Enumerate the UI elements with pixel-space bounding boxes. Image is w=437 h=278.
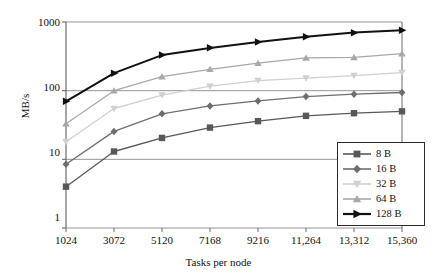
xtick-label-15360: 15,360 <box>378 234 426 246</box>
legend-marker-triangle-right-icon <box>342 207 372 221</box>
xtick-label-5120: 5120 <box>138 234 186 246</box>
legend-label-16b: 16 B <box>376 163 396 174</box>
legend-item-32b: 32 B <box>342 176 420 191</box>
xtick-label-9216: 9216 <box>234 234 282 246</box>
legend-label-128b: 128 B <box>376 208 401 219</box>
x-axis-label: Tasks per node <box>0 256 437 268</box>
xtick-label-13312: 13,312 <box>330 234 378 246</box>
ytick-label-10: 10 <box>16 146 60 158</box>
legend-item-64b: 64 B <box>342 191 420 206</box>
xtick-label-7168: 7168 <box>186 234 234 246</box>
legend-label-64b: 64 B <box>376 193 396 204</box>
legend-label-32b: 32 B <box>376 178 396 189</box>
legend-item-128b: 128 B <box>342 206 420 221</box>
chart-legend: 8 B 16 B 32 B 64 B 128 B <box>337 142 425 226</box>
legend-label-8b: 8 B <box>376 148 391 159</box>
xtick-label-11264: 11,264 <box>282 234 330 246</box>
legend-item-16b: 16 B <box>342 161 420 176</box>
legend-item-8b: 8 B <box>342 146 420 161</box>
ytick-label-1000: 1000 <box>16 16 60 28</box>
xtick-label-1024: 1024 <box>42 234 90 246</box>
legend-marker-square-icon <box>342 147 372 161</box>
legend-marker-triangle-up-icon <box>342 192 372 206</box>
legend-marker-triangle-down-icon <box>342 177 372 191</box>
y-axis-label: MB/s <box>19 76 31 136</box>
legend-marker-diamond-icon <box>342 162 372 176</box>
ytick-label-1: 1 <box>16 211 60 223</box>
xtick-label-3072: 3072 <box>90 234 138 246</box>
chart-figure: 1000 100 10 1 1024 3072 5120 7168 9216 1… <box>0 0 437 278</box>
